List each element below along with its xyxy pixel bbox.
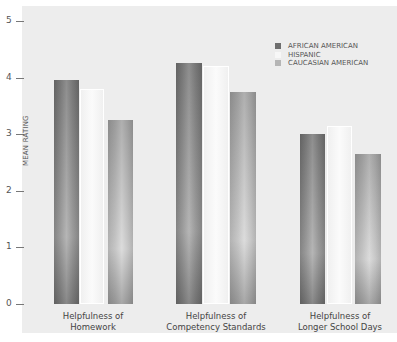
y-axis-label: MEAN RATING (22, 115, 30, 166)
legend-label: CAUCASIAN AMERICAN (288, 59, 368, 67)
legend-item: CAUCASIAN AMERICAN (275, 59, 368, 67)
legend-item: AFRICAN AMERICAN (275, 42, 358, 50)
bar (203, 66, 229, 304)
bar (54, 80, 79, 304)
bar (355, 154, 381, 304)
bar (230, 92, 256, 304)
bar (108, 120, 133, 304)
x-category-label: Helpfulness ofHomework (33, 311, 153, 333)
y-tick-mark (16, 21, 24, 22)
bar (327, 126, 352, 304)
bar (300, 134, 325, 304)
legend-swatch (275, 60, 281, 66)
legend-swatch (275, 43, 281, 49)
y-tick-mark (16, 304, 24, 305)
y-tick-label: 3 (6, 128, 16, 138)
legend-item: HISPANIC (275, 51, 321, 59)
legend-label: AFRICAN AMERICAN (288, 42, 358, 50)
y-tick-mark (16, 247, 24, 248)
legend-label: HISPANIC (288, 51, 321, 59)
y-tick-label: 4 (6, 72, 16, 82)
legend-swatch (275, 52, 281, 58)
bar (176, 63, 202, 304)
x-category-label: Helpfulness ofCompetency Standards (156, 311, 276, 333)
y-tick-label: 2 (6, 185, 16, 195)
y-tick-label: 0 (6, 298, 16, 308)
y-tick-mark (16, 191, 24, 192)
x-category-label: Helpfulness ofLonger School Days (280, 311, 397, 333)
y-tick-label: 1 (6, 241, 16, 251)
y-tick-mark (16, 78, 24, 79)
y-tick-label: 5 (6, 15, 16, 25)
bar (80, 89, 104, 304)
